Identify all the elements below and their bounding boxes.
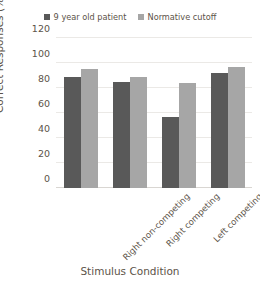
bar: [81, 69, 98, 188]
bar: [113, 82, 130, 188]
y-axis-tick-label: 120: [32, 24, 50, 34]
legend-swatch-icon-cutoff: [138, 14, 144, 20]
y-axis-tick-label: 80: [38, 74, 50, 84]
bar-chart: 9 year old patient Normative cutoff Corr…: [0, 0, 260, 290]
legend-swatch-icon-patient: [44, 14, 50, 20]
legend-label-patient: 9 year old patient: [54, 13, 127, 21]
y-axis-title: Correct Responses (%): [0, 0, 5, 113]
y-axis-tick-label: 100: [32, 49, 50, 59]
bar: [162, 117, 179, 188]
bar: [179, 83, 196, 188]
bar: [130, 77, 147, 188]
y-axis-tick-label: 40: [38, 124, 50, 134]
legend-entry-patient: 9 year old patient: [44, 13, 127, 21]
bar-groups: [56, 38, 252, 188]
y-axis-tick-label: 0: [44, 174, 50, 184]
legend-entry-cutoff: Normative cutoff: [138, 13, 217, 21]
bar: [211, 73, 228, 188]
plot-area: 020406080100120: [56, 38, 252, 188]
y-axis-tick-label: 60: [38, 99, 50, 109]
bar-group: [64, 38, 98, 188]
bar: [64, 77, 81, 188]
bar-group: [113, 38, 147, 188]
x-axis-tick-label: Right competing: [164, 192, 220, 248]
y-axis-tick-label: 20: [38, 149, 50, 159]
legend-label-cutoff: Normative cutoff: [148, 13, 217, 21]
x-axis-title: Stimulus Condition: [0, 266, 260, 277]
chart-legend: 9 year old patient Normative cutoff: [0, 13, 260, 21]
bar: [228, 67, 245, 188]
bar-group: [162, 38, 196, 188]
bar-group: [211, 38, 245, 188]
